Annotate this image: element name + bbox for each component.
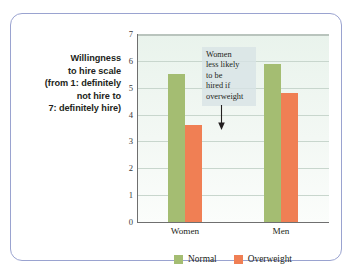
y-axis-tick-label: 6 [119, 56, 133, 66]
legend-label: Overweight [248, 254, 292, 264]
annotation-callout: Women less likely to be hired if overwei… [202, 47, 256, 106]
annotation-line: Women [206, 50, 253, 60]
annotation-line: hired if [206, 81, 253, 91]
x-axis-tick-label: Women [155, 226, 215, 236]
x-axis-line [137, 222, 329, 223]
legend-item[interactable]: Normal [174, 254, 217, 264]
bar-group [264, 34, 298, 222]
bar-women-overweight[interactable] [185, 125, 202, 222]
y-axis-tick-labels: 01234567 [115, 34, 133, 222]
bar-men-normal[interactable] [264, 64, 281, 222]
bar-women-normal[interactable] [168, 74, 185, 222]
y-axis-title-line: to hire scale [17, 65, 121, 78]
down-arrow-icon [217, 105, 226, 131]
legend: NormalOverweight [137, 254, 329, 264]
y-axis-title-line: Willingness [17, 52, 121, 65]
y-axis-tick-label: 0 [119, 217, 133, 227]
legend-item[interactable]: Overweight [234, 254, 292, 264]
y-axis-tick-label: 2 [119, 163, 133, 173]
bar-men-overweight[interactable] [281, 93, 298, 222]
y-axis-tick-label: 4 [119, 110, 133, 120]
y-axis-tick-label: 7 [119, 29, 133, 39]
y-axis-title-line: (from 1: definitely [17, 77, 121, 90]
x-axis-tick-label: Men [251, 226, 311, 236]
annotation-line: less likely [206, 60, 253, 70]
legend-swatch [234, 255, 243, 264]
y-axis-title-line: not hire to [17, 90, 121, 103]
y-axis-title: Willingness to hire scale (from 1: defin… [17, 52, 121, 115]
annotation-line: overweight [206, 92, 253, 102]
y-axis-tick-label: 1 [119, 190, 133, 200]
y-axis-tick-label: 3 [119, 136, 133, 146]
legend-swatch [174, 255, 183, 264]
y-axis-tick-label: 5 [119, 83, 133, 93]
bar-group [168, 34, 202, 222]
chart-frame: Willingness to hire scale (from 1: defin… [10, 13, 342, 261]
annotation-line: to be [206, 71, 253, 81]
y-axis-title-line: 7: definitely hire) [17, 102, 121, 115]
legend-label: Normal [188, 254, 217, 264]
